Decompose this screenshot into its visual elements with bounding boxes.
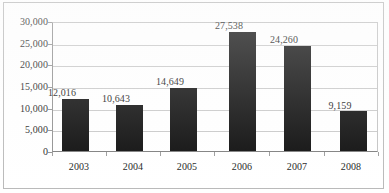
x-axis-label-2006: 2006 — [213, 161, 271, 172]
x-axis-label-2005: 2005 — [158, 161, 216, 172]
gridline-15000 — [53, 88, 377, 89]
x-axis-tick-mark — [324, 152, 325, 156]
bar-2005[interactable] — [170, 88, 197, 152]
y-axis-tick-label: 30,000 — [2, 17, 48, 27]
x-axis-label-2007: 2007 — [268, 161, 326, 172]
x-axis-tick-mark — [378, 152, 379, 156]
x-axis-label-2004: 2004 — [104, 161, 162, 172]
bar-value-label-2007: 24,260 — [255, 35, 313, 45]
x-axis-label-2008: 2008 — [322, 161, 380, 172]
gridline-20000 — [53, 66, 377, 67]
x-axis-label-2003: 2003 — [50, 161, 108, 172]
bar-chart: 30,000 25,000 20,000 15,000 10,000 5,000… — [0, 0, 389, 193]
bar-value-label-2004: 10,643 — [87, 94, 145, 104]
bar-2003[interactable] — [62, 99, 89, 151]
y-axis-tick-label: 5,000 — [2, 125, 48, 135]
gridline-25000 — [53, 45, 377, 46]
x-axis-tick-mark — [269, 152, 270, 156]
bar-2007[interactable] — [284, 46, 311, 151]
y-axis-tick-label: 10,000 — [2, 104, 48, 114]
bar-value-label-2005: 14,649 — [141, 77, 199, 87]
x-axis-tick-mark — [160, 152, 161, 156]
bar-value-label-2008: 9,159 — [311, 101, 369, 111]
x-axis-tick-mark — [106, 152, 107, 156]
bar-2004[interactable] — [116, 105, 143, 151]
y-axis-tick-label: 25,000 — [2, 39, 48, 49]
bar-2008[interactable] — [340, 111, 367, 151]
bar-value-label-2006: 27,538 — [200, 21, 258, 31]
gridline-5000 — [53, 131, 377, 132]
bar-value-label-2003: 12,016 — [33, 88, 91, 98]
y-axis-tick-label: 0 — [2, 147, 48, 157]
bar-2006[interactable] — [229, 32, 256, 151]
x-axis-tick-mark — [52, 152, 53, 156]
y-axis-tick-label: 20,000 — [2, 60, 48, 70]
x-axis-tick-mark — [214, 152, 215, 156]
plot-area — [52, 22, 378, 152]
